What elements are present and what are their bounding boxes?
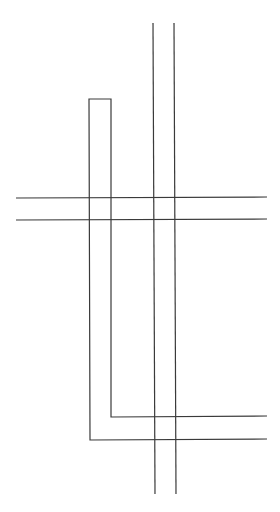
v-left-line <box>153 23 155 494</box>
line-diagram <box>0 0 280 512</box>
v-right-line <box>174 23 176 494</box>
lines-group <box>16 23 267 494</box>
h-top-line <box>16 197 267 198</box>
h-bottom-line <box>16 219 267 220</box>
u-shape-path <box>89 99 267 440</box>
diagram-canvas <box>0 0 280 512</box>
